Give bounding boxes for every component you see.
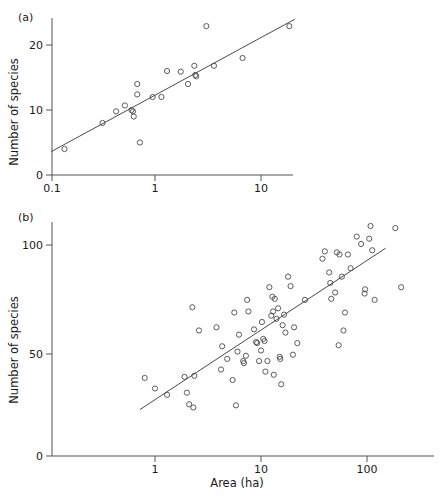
data-point [259, 319, 264, 324]
panel-b: (b) Number of species Area (ha) 0 50 100… [7, 211, 434, 490]
data-point [329, 296, 334, 301]
data-point [372, 297, 377, 302]
data-point [271, 372, 276, 377]
data-point [245, 297, 250, 302]
data-point [288, 284, 293, 289]
data-point [257, 358, 262, 363]
data-point [135, 92, 140, 97]
data-point [220, 344, 225, 349]
data-point [336, 343, 341, 348]
data-point [246, 309, 251, 314]
figure-species-area: (a) Number of species 0 10 20 0.1 1 10 (… [0, 0, 444, 499]
data-point [232, 310, 237, 315]
data-point [114, 109, 119, 114]
data-point [192, 63, 197, 68]
data-point [214, 325, 219, 330]
panel-a-y-tick-label-0: 0 [36, 169, 43, 182]
data-point [290, 352, 295, 357]
panel-a-y-axis-title: Number of species [7, 58, 21, 166]
data-point [265, 358, 270, 363]
panel-b-y-tick-label-0: 0 [36, 450, 43, 463]
data-point [235, 349, 240, 354]
data-point [368, 223, 373, 228]
data-point [263, 369, 268, 374]
data-point [332, 290, 337, 295]
data-point [182, 374, 187, 379]
data-point [258, 348, 263, 353]
data-point [233, 403, 238, 408]
data-point [291, 325, 296, 330]
panel-a-regression-line [51, 19, 295, 152]
data-point [236, 332, 241, 337]
data-point [279, 382, 284, 387]
data-point [130, 109, 135, 114]
data-point [341, 328, 346, 333]
data-point [191, 405, 196, 410]
data-point [135, 81, 140, 86]
data-point [196, 328, 201, 333]
data-point [322, 249, 327, 254]
data-point [243, 353, 248, 358]
data-point [354, 234, 359, 239]
data-point [230, 377, 235, 382]
data-point [370, 248, 375, 253]
data-point [178, 69, 183, 74]
data-point [225, 356, 230, 361]
data-point [204, 24, 209, 29]
data-point [211, 63, 216, 68]
panel-b-tag: (b) [18, 211, 34, 224]
data-point [194, 74, 199, 79]
data-point [240, 55, 245, 60]
data-point [142, 375, 147, 380]
data-point [267, 285, 272, 290]
data-point [62, 146, 67, 151]
panel-b-x-tick-label-10: 10 [254, 463, 268, 476]
panel-b-regression-line [140, 248, 386, 409]
data-point [251, 327, 256, 332]
panel-a-y-tick-label-20: 20 [29, 39, 43, 52]
data-point [399, 285, 404, 290]
data-point [342, 310, 347, 315]
panel-a-x-tick-label-0p1: 0.1 [43, 182, 61, 195]
data-point [280, 323, 285, 328]
data-point [287, 24, 292, 29]
panel-b-y-tick-label-50: 50 [29, 348, 43, 361]
data-point [218, 367, 223, 372]
data-point [359, 241, 364, 246]
data-point [164, 392, 169, 397]
data-point [283, 330, 288, 335]
data-point [285, 274, 290, 279]
data-point [345, 252, 350, 257]
data-point [185, 81, 190, 86]
data-point [348, 266, 353, 271]
panel-a-scatter-points [62, 24, 292, 152]
regression-line [140, 248, 386, 409]
data-point [164, 68, 169, 73]
panel-a-x-tick-label-10: 10 [254, 182, 268, 195]
panel-b-y-axis-title: Number of species [7, 296, 21, 404]
data-point [184, 390, 189, 395]
regression-line [51, 19, 295, 152]
panel-a-y-tick-label-10: 10 [29, 104, 43, 117]
data-point [295, 341, 300, 346]
data-point [276, 306, 281, 311]
data-point [137, 140, 142, 145]
panel-b-y-tick-label-100: 100 [22, 239, 43, 252]
panel-a: (a) Number of species 0 10 20 0.1 1 10 [7, 11, 295, 195]
data-point [327, 270, 332, 275]
data-point [152, 386, 157, 391]
data-point [190, 305, 195, 310]
data-point [320, 256, 325, 261]
panel-b-x-tick-label-1: 1 [152, 463, 159, 476]
data-point [393, 226, 398, 231]
figure-svg: (a) Number of species 0 10 20 0.1 1 10 (… [0, 0, 444, 499]
panel-b-x-tick-label-100: 100 [357, 463, 378, 476]
panel-a-x-tick-label-1: 1 [152, 182, 159, 195]
panel-a-tag: (a) [18, 11, 33, 24]
data-point [159, 94, 164, 99]
data-point [367, 236, 372, 241]
panel-b-x-axis-title: Area (ha) [210, 476, 263, 490]
data-point [131, 114, 136, 119]
data-point [122, 103, 127, 108]
